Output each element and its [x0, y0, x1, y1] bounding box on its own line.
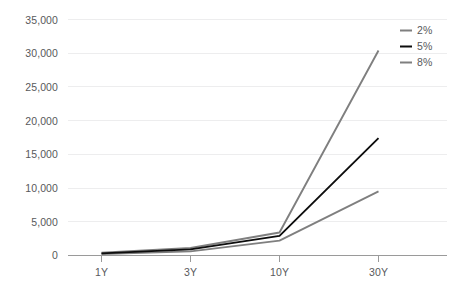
ytick-label: 30,000	[25, 47, 58, 59]
ytick-label: 20,000	[25, 115, 58, 127]
legend-label-2pct: 2%	[417, 24, 432, 36]
ytick-label: 35,000	[25, 14, 58, 26]
xtick-label-30y: 30Y	[369, 266, 388, 278]
ytick-label: 15,000	[25, 148, 58, 160]
legend-label-8pct: 8%	[417, 56, 432, 68]
xtick-label-1y: 1Y	[95, 266, 108, 278]
xtick-label-10y: 10Y	[270, 266, 289, 278]
line-chart: 35,000 30,000 25,000 20,000 15,000 10,00…	[0, 0, 452, 297]
ytick-label: 10,000	[25, 182, 58, 194]
legend-label-5pct: 5%	[417, 40, 432, 52]
ytick-label: 25,000	[25, 81, 58, 93]
chart-canvas: 35,000 30,000 25,000 20,000 15,000 10,00…	[0, 0, 452, 297]
chart-background	[0, 0, 452, 297]
ytick-label: 5,000	[31, 216, 58, 228]
ytick-label: 0	[52, 249, 58, 261]
xtick-label-3y: 3Y	[184, 266, 197, 278]
